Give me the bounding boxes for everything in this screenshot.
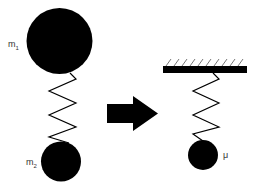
mass-1-circle [27,8,93,74]
diagram-svg [0,0,257,188]
diagram-canvas: m1 m2 μ [0,0,257,188]
ceiling-hatch [166,59,243,66]
mass-1-label: m1 [8,40,19,51]
mass-2-circle [41,142,81,182]
reduced-mass-label: μ [223,151,228,160]
mu-symbol: μ [223,150,228,160]
reduced-mass-circle [188,140,218,170]
transform-arrow [107,96,158,131]
mass-1-symbol: m [8,39,16,49]
mass-1-subscript: 1 [16,45,19,51]
right-spring [193,73,219,141]
ceiling-bar [163,66,247,73]
mass-2-subscript: 2 [34,163,37,169]
left-spring [49,73,76,143]
mass-2-label: m2 [26,158,37,169]
mass-2-symbol: m [26,157,34,167]
